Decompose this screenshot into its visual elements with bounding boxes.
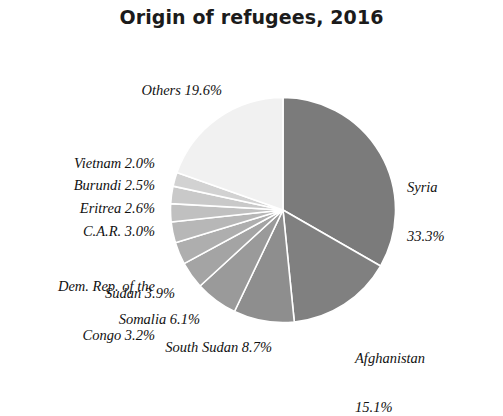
pie-svg <box>170 97 396 323</box>
slice-label-syria-line1: Syria <box>407 179 444 195</box>
slice-label-eritrea: Eritrea 2.6% <box>0 200 155 216</box>
slice-label-afghanistan-line1: Afghanistan <box>355 350 425 366</box>
slice-label-syria: Syria 33.3% <box>407 147 444 277</box>
pie-slice-group <box>170 98 395 323</box>
slice-label-south-sudan: South Sudan 8.7% <box>0 339 272 355</box>
slice-label-afghanistan: Afghanistan 15.1% <box>355 318 425 416</box>
slice-label-syria-line2: 33.3% <box>407 228 444 244</box>
slice-label-afghanistan-line2: 15.1% <box>355 399 425 415</box>
page-title: Origin of refugees, 2016 <box>0 6 503 28</box>
pie-chart-canvas <box>170 97 396 323</box>
slice-label-sudan: Sudan 3.9% <box>0 285 175 301</box>
slice-label-burundi: Burundi 2.5% <box>0 177 155 193</box>
slice-label-vietnam: Vietnam 2.0% <box>0 155 155 171</box>
slice-label-others: Others 19.6% <box>0 82 222 98</box>
slice-label-somalia: Somalia 6.1% <box>0 311 200 327</box>
slice-label-car: C.A.R. 3.0% <box>0 223 155 239</box>
